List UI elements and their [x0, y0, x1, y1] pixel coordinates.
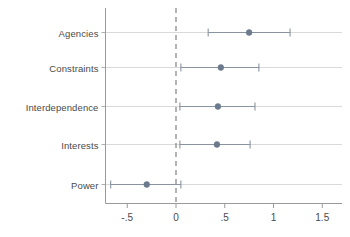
estimate-group	[181, 64, 259, 72]
estimate-group	[180, 103, 255, 111]
estimate-group	[180, 141, 250, 149]
estimate-group	[208, 29, 290, 37]
x-tick-label: 0	[173, 212, 179, 223]
point-estimate-marker	[218, 65, 224, 71]
category-label: Interests	[61, 139, 98, 150]
x-tick-label: 1	[271, 212, 277, 223]
estimate-group	[111, 181, 181, 189]
plot-area	[0, 0, 350, 237]
category-label: Agencies	[59, 27, 99, 38]
chart-canvas	[0, 0, 350, 237]
point-estimate-marker	[144, 182, 150, 188]
category-label: Interdependence	[26, 101, 99, 112]
category-label: Constraints	[49, 62, 98, 73]
x-tick-label: .5	[220, 212, 229, 223]
point-estimate-marker	[214, 142, 220, 148]
point-estimate-marker	[215, 104, 221, 110]
coefficient-plot: AgenciesConstraintsInterdependenceIntere…	[0, 0, 350, 237]
category-label: Power	[71, 179, 98, 190]
point-estimate-marker	[246, 30, 252, 36]
x-tick-label: -.5	[121, 212, 133, 223]
x-tick-label: 1.5	[315, 212, 329, 223]
